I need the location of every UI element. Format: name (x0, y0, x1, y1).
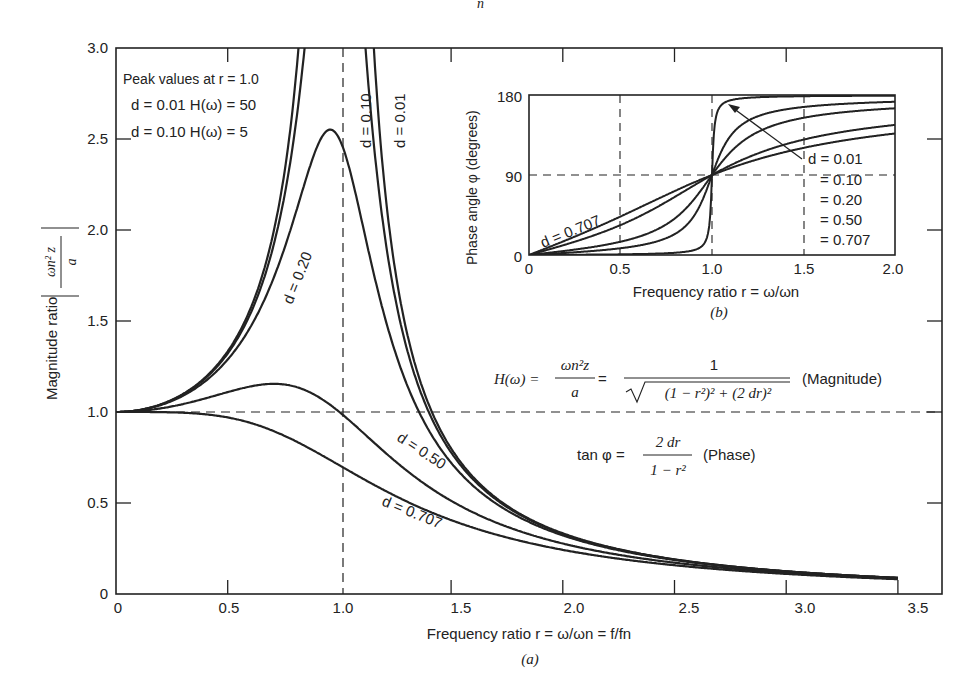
y-axis-fraction: ωn² z a (41, 228, 79, 296)
y-axis-fraction-denominator: a (64, 259, 79, 266)
y-tick-label: 1.0 (87, 403, 108, 420)
peak-title: Peak values at r = 1.0 (123, 71, 259, 87)
inset-y-tick: 90 (505, 168, 522, 185)
legend-entry: = 0.50 (820, 211, 862, 228)
y-axis-title: Magnitude ratio (43, 297, 60, 400)
x-tick-label: 3.0 (795, 599, 816, 616)
phase-formula-lhs: tan φ = (577, 446, 625, 463)
legend-entry: = 0.20 (820, 191, 862, 208)
inset-x-tick: 1.0 (702, 260, 723, 277)
inset-phase-plot: 180 90 0 0 0.5 1.0 1.5 2.0 Phase angle φ… (464, 88, 903, 321)
inset-y-tick: 180 (497, 88, 522, 105)
magnitude-curve-d05 (116, 384, 898, 579)
magnitude-tag: (Magnitude) (802, 370, 882, 387)
inset-y-axis-title: Phase angle φ (degrees) (464, 110, 480, 265)
magnitude-frac2-den: (1 − r²)² + (2 dr)² (665, 385, 772, 402)
inset-x-axis-title: Frequency ratio r = ω/ωn (633, 283, 799, 300)
magnitude-frac1-den: a (571, 384, 579, 400)
caption-a: (a) (521, 651, 539, 668)
y-tick-label: 3.0 (87, 39, 108, 56)
x-tick-label: 2.5 (679, 599, 700, 616)
caption-b: (b) (710, 304, 728, 321)
x-tick-label: 0.5 (219, 599, 240, 616)
x-tick-label: 1.5 (451, 599, 472, 616)
inset-x-tick: 2.0 (883, 260, 904, 277)
legend-entry: = 0.10 (820, 171, 862, 188)
curve-label-d020: d = 0.20 (279, 249, 315, 306)
peak-values-annotation: Peak values at r = 1.0 d = 0.01 H(ω) = 5… (123, 71, 259, 140)
x-tick-label: 3.5 (908, 599, 929, 616)
legend-entry: d = 0.01 (808, 150, 863, 167)
phase-num: 2 dr (656, 434, 681, 450)
y-tick-label: 2.5 (87, 130, 108, 147)
magnitude-curve-d0707 (116, 412, 898, 579)
phase-den: 1 − r² (650, 462, 686, 478)
main-x-tick-labels: 0 0.5 1.0 1.5 2.0 2.5 3.0 3.5 (114, 599, 929, 616)
inset-x-tick: 0.5 (610, 260, 631, 277)
y-tick-label: 2.0 (87, 221, 108, 238)
inset-x-tick: 1.5 (794, 260, 815, 277)
curve-label-d001: d = 0.01 (391, 93, 408, 148)
curve-label-d010: d = 0.10 (357, 93, 374, 148)
svg-text:=: = (598, 370, 607, 387)
top-fragment: n (477, 0, 484, 11)
y-axis-fraction-numerator: ωn² z (43, 246, 58, 277)
x-tick-label: 0 (114, 599, 122, 616)
peak-line-d010: d = 0.10 H(ω) = 5 (131, 123, 248, 140)
x-axis-title: Frequency ratio r = ω/ωn = f/fn (427, 625, 631, 642)
y-tick-label: 0 (100, 585, 108, 602)
peak-line-d001: d = 0.01 H(ω) = 50 (131, 96, 256, 113)
magnitude-frac1-num: ωn²z (561, 357, 590, 373)
phase-formula: tan φ = 2 dr 1 − r² (Phase) (577, 434, 756, 478)
inset-x-tick: 0 (525, 260, 533, 277)
magnitude-formula-lhs: H(ω) = (493, 371, 539, 388)
magnitude-frac2-num: 1 (710, 356, 718, 373)
magnitude-formula: H(ω) = ωn²z a = 1 (1 − r²)² + (2 dr)² (M… (493, 356, 882, 402)
y-tick-label: 0.5 (87, 494, 108, 511)
phase-tag: (Phase) (703, 446, 756, 463)
curve-label-d0707: d = 0.707 (380, 492, 445, 531)
main-y-tick-labels: 0 0.5 1.0 1.5 2.0 2.5 3.0 (87, 39, 108, 602)
legend-entry: = 0.707 (820, 231, 870, 248)
inset-y-tick: 0 (514, 248, 522, 265)
y-tick-label: 1.5 (87, 312, 108, 329)
x-tick-label: 2.0 (564, 599, 585, 616)
x-tick-label: 1.0 (333, 599, 354, 616)
frequency-response-figure: n 0 0.5 1.0 1.5 2.0 2.5 3.0 0 0.5 1.0 1.… (0, 0, 973, 683)
